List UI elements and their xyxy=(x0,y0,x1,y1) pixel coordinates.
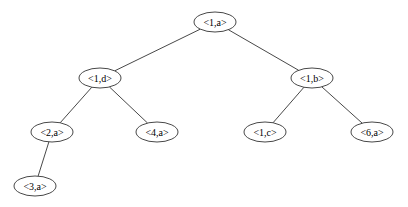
tree-node: <4,a> xyxy=(136,122,178,142)
edge-n1b-n6a xyxy=(322,87,362,123)
node-label: <1,c> xyxy=(253,127,277,138)
node-label: <6,a> xyxy=(360,127,384,138)
edge-n1a-n1d xyxy=(115,29,201,71)
tree-node: <1,a> xyxy=(194,12,236,32)
node-label: <3,a> xyxy=(23,181,47,192)
tree-node: <1,c> xyxy=(244,122,286,142)
edges xyxy=(38,29,362,176)
nodes: <1,a><1,d><1,b><2,a><4,a><1,c><6,a><3,a> xyxy=(14,12,393,196)
tree-node: <2,a> xyxy=(31,122,73,142)
node-label: <4,a> xyxy=(145,127,169,138)
edge-n1a-n1b xyxy=(228,30,298,71)
node-label: <1,d> xyxy=(88,73,112,84)
tree-node: <1,b> xyxy=(291,68,333,88)
tree-node: <6,a> xyxy=(351,122,393,142)
tree-diagram: <1,a><1,d><1,b><2,a><4,a><1,c><6,a><3,a> xyxy=(0,0,408,207)
node-label: <1,b> xyxy=(300,73,324,84)
node-label: <2,a> xyxy=(40,127,64,138)
tree-node: <3,a> xyxy=(14,176,56,196)
tree-node: <1,d> xyxy=(79,68,121,88)
edge-n1d-n4a xyxy=(109,87,147,123)
edge-n2a-n3a xyxy=(38,142,49,176)
node-label: <1,a> xyxy=(203,17,227,28)
edge-n1d-n2a xyxy=(60,87,92,123)
edge-n1b-n1c xyxy=(273,87,304,123)
